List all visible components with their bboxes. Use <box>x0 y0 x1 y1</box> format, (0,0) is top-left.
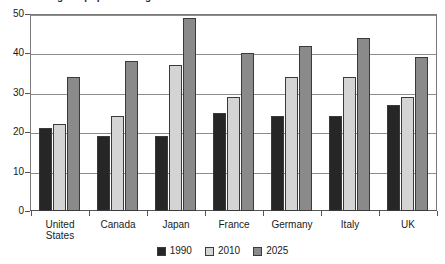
bar-group <box>387 14 429 211</box>
bar-2010-germany[interactable] <box>285 77 298 211</box>
bar-2010-italy[interactable] <box>343 77 356 211</box>
x-axis-tick <box>89 211 90 216</box>
bar-2010-canada[interactable] <box>111 116 124 211</box>
bar-group <box>329 14 371 211</box>
bar-2025-japan[interactable] <box>183 18 196 211</box>
legend-swatch-icon <box>253 247 262 256</box>
bar-2010-united-states[interactable] <box>53 124 66 211</box>
x-axis-tick <box>379 211 380 216</box>
y-axis-labels: 01020304050 <box>0 0 24 264</box>
legend-item-2010[interactable]: 2010 <box>205 246 240 256</box>
bar-group <box>39 14 81 211</box>
bar-2010-japan[interactable] <box>169 65 182 211</box>
y-axis-tick <box>25 132 30 133</box>
y-axis-tick-label: 40 <box>2 48 24 58</box>
bar-1990-united-states[interactable] <box>39 128 52 211</box>
bar-1990-germany[interactable] <box>271 116 284 211</box>
bar-1990-japan[interactable] <box>155 136 168 211</box>
y-axis-tick-label: 30 <box>2 88 24 98</box>
chart-legend: 199020102025 <box>0 246 445 256</box>
y-axis-tick-label: 10 <box>2 167 24 177</box>
chart-title: Percentage of population aged 65 and ove… <box>14 0 223 2</box>
bar-2025-united-states[interactable] <box>67 77 80 211</box>
legend-swatch-icon <box>157 247 166 256</box>
bars-layer <box>31 14 437 211</box>
legend-item-2025[interactable]: 2025 <box>253 246 288 256</box>
bar-2025-france[interactable] <box>241 53 254 211</box>
y-axis-tick <box>25 172 30 173</box>
bar-2010-uk[interactable] <box>401 97 414 211</box>
legend-item-1990[interactable]: 1990 <box>157 246 192 256</box>
bar-2025-uk[interactable] <box>415 57 428 211</box>
x-axis-tick <box>437 211 438 216</box>
x-axis-tick <box>31 211 32 216</box>
legend-label: 2025 <box>266 246 288 256</box>
legend-label: 1990 <box>170 246 192 256</box>
bar-chart: Percentage of population aged 65 and ove… <box>0 0 445 264</box>
bar-2010-france[interactable] <box>227 97 240 211</box>
y-axis-tick-label: 50 <box>2 9 24 19</box>
x-axis-tick <box>321 211 322 216</box>
y-axis-tick <box>25 14 30 15</box>
y-axis-tick <box>25 93 30 94</box>
x-axis-tick <box>205 211 206 216</box>
x-axis-tick <box>263 211 264 216</box>
bar-2025-canada[interactable] <box>125 61 138 211</box>
bar-2025-germany[interactable] <box>299 46 312 211</box>
bar-1990-uk[interactable] <box>387 105 400 211</box>
legend-label: 2010 <box>218 246 240 256</box>
legend-swatch-icon <box>205 247 214 256</box>
x-axis-category-label: UK <box>373 219 443 230</box>
bar-group <box>271 14 313 211</box>
bar-2025-italy[interactable] <box>357 38 370 211</box>
x-axis-category-label-line: States <box>25 230 95 241</box>
y-axis-tick-label: 0 <box>2 206 24 216</box>
x-axis-tick <box>147 211 148 216</box>
bar-1990-france[interactable] <box>213 113 226 212</box>
bar-1990-italy[interactable] <box>329 116 342 211</box>
bar-group <box>97 14 139 211</box>
x-axis-category-label-line: UK <box>373 219 443 230</box>
bar-group <box>213 14 255 211</box>
y-axis-tick <box>25 53 30 54</box>
y-axis-tick <box>25 211 30 212</box>
y-axis-tick-label: 20 <box>2 127 24 137</box>
bar-1990-canada[interactable] <box>97 136 110 211</box>
bar-group <box>155 14 197 211</box>
